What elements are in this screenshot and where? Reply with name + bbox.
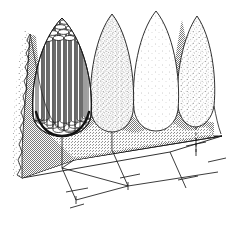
gridline-1	[62, 168, 76, 200]
tick-mark	[70, 204, 84, 208]
peak-4-skirt-right	[214, 106, 221, 134]
gridline-back-sweep	[62, 168, 128, 186]
peak-2-stipple-light	[86, 8, 138, 138]
peak-3-light	[130, 6, 184, 136]
gridline-2	[112, 150, 128, 186]
figure-root: Hand-drawn 3D surface with cylindrical s…	[0, 0, 226, 232]
gridline-3	[170, 152, 186, 188]
tick-mark	[66, 188, 88, 192]
surface-3d-illustration	[0, 0, 226, 232]
tick-mark	[208, 158, 226, 162]
